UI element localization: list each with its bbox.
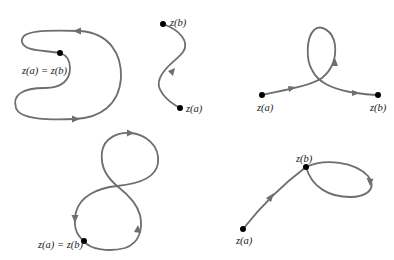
label-z-a-equals-z-b: z(a) = z(b) <box>22 66 67 77</box>
figure-eight <box>72 130 159 250</box>
point-z-a <box>240 226 246 232</box>
label-z-a: z(a) <box>257 103 273 114</box>
point-z-b <box>375 92 381 98</box>
label-z-b: z(b) <box>170 18 186 29</box>
self-intersecting-arc <box>259 28 381 98</box>
arrow-icon <box>127 130 134 137</box>
arrow-icon <box>73 28 81 35</box>
label-z-a-equals-z-b: z(a) = z(b) <box>38 240 83 251</box>
label-z-a: z(a) <box>186 104 202 115</box>
label-z-b: z(b) <box>296 154 312 165</box>
point-z-a-z-b <box>57 50 63 56</box>
label-z-b: z(b) <box>370 103 386 114</box>
contour-diagram <box>0 0 394 260</box>
arrow-icon <box>352 90 360 96</box>
arrow-icon <box>72 116 80 123</box>
arrow-icon <box>168 68 175 76</box>
point-z-b <box>160 21 166 27</box>
label-z-a: z(a) <box>236 236 252 247</box>
point-z-a <box>259 92 265 98</box>
point-z-b <box>303 164 309 170</box>
arrow-icon <box>72 215 79 223</box>
arrow-icon <box>288 86 296 92</box>
arc-with-loop-end <box>240 162 374 232</box>
point-z-a <box>177 105 183 111</box>
arrow-icon <box>367 178 374 186</box>
simple-arc <box>159 21 186 111</box>
